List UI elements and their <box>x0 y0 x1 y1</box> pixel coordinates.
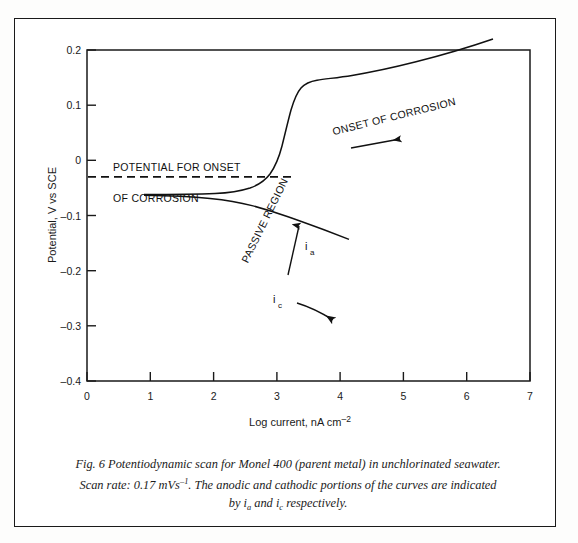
onset-of-corrosion-label: ONSET OF CORROSION <box>331 95 457 137</box>
anodic-current-label: i a <box>305 240 315 257</box>
cathodic-current-subscript: c <box>278 301 282 310</box>
caption-line-3-rest: respectively. <box>283 496 347 510</box>
y-axis-ticks <box>87 50 96 381</box>
plot-frame <box>87 50 530 381</box>
of-corrosion-label: OF CORROSION <box>113 192 199 204</box>
y-axis-tick-labels: 0.2 0.1 0 –0.1 –0.2 –0.3 –0.4 <box>61 44 82 387</box>
x-tick-label: 5 <box>400 390 406 402</box>
x-tick-label: 3 <box>274 390 280 402</box>
x-axis-title: Log current, nA cm–2 <box>249 414 351 428</box>
x-tick-label: 7 <box>527 390 533 402</box>
anodic-direction-arrow-icon <box>288 226 299 275</box>
x-tick-label: 1 <box>147 390 153 402</box>
cathodic-current-symbol: i <box>273 293 275 305</box>
cathodic-direction-arrow-icon <box>297 303 333 320</box>
figure-container: 0.2 0.1 0 –0.1 –0.2 –0.3 –0.4 Potential,… <box>0 0 578 543</box>
y-tick-label: 0.1 <box>66 99 81 111</box>
caption-scan-rate: Scan rate: 0.17 mVs <box>79 478 180 492</box>
caption-by-ia: by i <box>229 496 247 510</box>
x-axis-title-exponent: –2 <box>341 414 351 424</box>
x-tick-label: 6 <box>464 390 470 402</box>
anodic-current-symbol: i <box>305 240 307 252</box>
x-tick-label: 4 <box>337 390 343 402</box>
cathodic-current-label: i c <box>273 293 282 310</box>
caption-line-3: by ia and ic respectively. <box>34 495 542 517</box>
y-tick-label: –0.3 <box>61 320 82 332</box>
potential-for-onset-label: POTENTIAL FOR ONSET <box>113 161 241 173</box>
onset-direction-arrow-icon <box>351 139 400 148</box>
caption-line-1: Fig. 6 Potentiodynamic scan for Monel 40… <box>34 456 542 473</box>
caption-line-2-rest: . The anodic and cathodic portions of th… <box>188 478 496 492</box>
x-axis-title-text: Log current, nA cm <box>249 416 341 428</box>
y-tick-label: 0.2 <box>66 44 81 56</box>
y-tick-label: –0.1 <box>61 210 82 222</box>
x-axis-tick-labels: 0 1 2 3 4 5 6 7 <box>84 390 533 402</box>
y-tick-label: 0 <box>75 154 81 166</box>
caption-and-ic: and i <box>251 496 279 510</box>
y-axis-title: Potential, V vs SCE <box>46 167 58 263</box>
y-tick-label: –0.4 <box>61 375 82 387</box>
y-tick-label: –0.2 <box>61 265 82 277</box>
caption-line-2: Scan rate: 0.17 mVs–1. The anodic and ca… <box>34 473 542 494</box>
x-tick-label: 0 <box>84 390 90 402</box>
data-curves <box>144 39 493 239</box>
x-axis-ticks <box>87 372 530 381</box>
anodic-current-subscript: a <box>310 248 315 257</box>
figure-caption: Fig. 6 Potentiodynamic scan for Monel 40… <box>34 456 542 516</box>
x-tick-label: 2 <box>211 390 217 402</box>
